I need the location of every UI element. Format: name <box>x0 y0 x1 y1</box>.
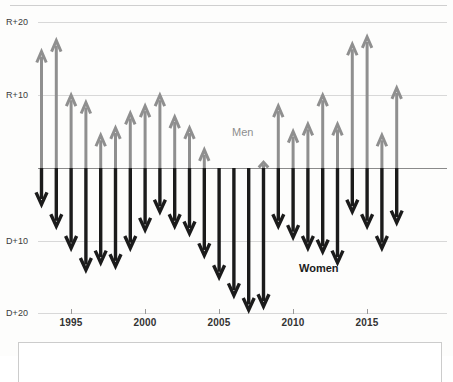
y-axis-label-r20: R+20 <box>6 17 28 27</box>
series-label-men: Men <box>232 126 253 138</box>
men-arrow <box>392 88 402 168</box>
men-arrow <box>333 124 343 168</box>
men-arrows-group <box>37 37 402 168</box>
men-arrow <box>170 117 180 168</box>
x-tick-2005 <box>219 309 220 314</box>
men-arrow <box>111 128 121 168</box>
x-axis-label-2015: 2015 <box>355 317 378 328</box>
men-arrow <box>274 106 284 168</box>
women-arrow <box>110 168 121 266</box>
women-arrow <box>302 168 313 248</box>
women-arrow <box>36 168 47 204</box>
x-axis-label-2005: 2005 <box>207 317 230 328</box>
men-arrow <box>140 106 150 168</box>
x-tick-2010 <box>293 309 294 314</box>
women-arrow <box>258 168 269 306</box>
x-tick-2015 <box>367 309 368 314</box>
x-axis-label-1995: 1995 <box>59 317 82 328</box>
women-arrows-group <box>36 168 402 310</box>
women-arrow <box>362 168 373 226</box>
women-arrow <box>273 168 284 226</box>
women-arrow <box>347 168 358 212</box>
gridline-zero <box>38 168 447 169</box>
men-arrow <box>362 37 372 168</box>
gridline-d10 <box>38 241 447 242</box>
women-arrow <box>376 168 387 248</box>
men-arrow <box>200 150 210 168</box>
women-arrow <box>288 168 299 237</box>
men-arrow <box>318 95 328 168</box>
men-arrow <box>303 124 313 168</box>
x-axis-label-2000: 2000 <box>133 317 156 328</box>
women-arrow <box>199 168 210 255</box>
series-label-women: Women <box>299 262 339 274</box>
men-arrow <box>52 41 62 168</box>
men-arrow <box>37 52 47 168</box>
women-arrow <box>169 168 180 226</box>
men-arrow <box>348 44 358 168</box>
women-arrow <box>391 168 402 223</box>
women-arrow <box>51 168 62 226</box>
men-arrow <box>81 102 91 168</box>
women-arrow <box>80 168 91 270</box>
x-tick-1995 <box>71 309 72 314</box>
men-arrow <box>96 135 106 168</box>
women-arrow <box>317 168 328 252</box>
x-axis-label-2010: 2010 <box>281 317 304 328</box>
women-arrow <box>243 168 254 310</box>
women-arrow <box>184 168 195 234</box>
y-axis-label-d20: D+20 <box>6 308 28 318</box>
men-arrow <box>185 128 195 168</box>
gridline-r20 <box>38 22 447 23</box>
men-arrow <box>377 135 387 168</box>
gridline-d20 <box>38 313 447 314</box>
gridline-r10 <box>38 95 447 96</box>
x-tick-2000 <box>145 309 146 314</box>
women-arrow <box>125 168 136 248</box>
men-arrow <box>155 95 165 168</box>
women-arrow <box>214 168 225 277</box>
women-arrow <box>95 168 106 263</box>
footer-panel <box>18 342 442 382</box>
women-arrow <box>66 168 77 248</box>
men-arrow <box>288 132 298 168</box>
women-arrow <box>228 168 239 295</box>
women-arrow <box>154 168 165 212</box>
y-axis-label-d10: D+10 <box>6 236 28 246</box>
y-axis-label-r10: R+10 <box>6 90 28 100</box>
women-arrow <box>140 168 151 230</box>
men-arrow <box>66 95 76 168</box>
women-arrow <box>332 168 343 263</box>
men-arrow <box>126 113 136 168</box>
